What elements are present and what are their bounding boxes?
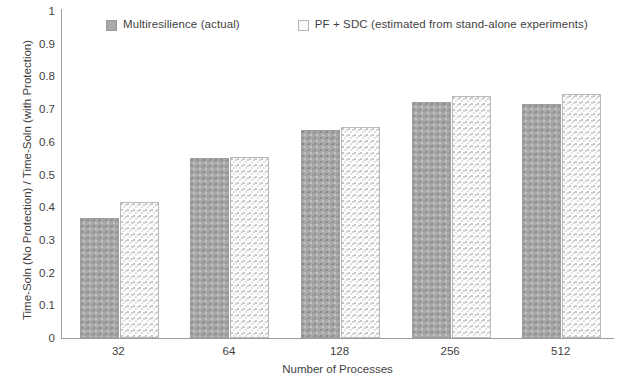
bar-group: [80, 11, 157, 338]
bar-group: [301, 11, 378, 338]
x-axis-tick-labels: 3264128256512: [61, 345, 614, 363]
x-axis-line: [61, 338, 614, 339]
bar-256-series-2: [452, 96, 491, 338]
x-tick-label: 128: [330, 345, 349, 357]
bar-group: [190, 11, 267, 338]
bar-group: [522, 11, 599, 338]
bar-32-series-2: [120, 202, 159, 338]
y-axis-title: Time-Soln (No Protection) / Time-Soln (w…: [21, 15, 33, 345]
bar-group: [412, 11, 489, 338]
bar-256-series-1: [412, 102, 451, 338]
bar-64-series-2: [230, 157, 269, 338]
bar-64-series-1: [190, 158, 229, 338]
x-tick-label: 64: [222, 345, 235, 357]
bar-32-series-1: [80, 218, 119, 338]
bar-128-series-1: [301, 130, 340, 338]
bars-layer: [61, 11, 614, 338]
bar-128-series-2: [341, 127, 380, 338]
x-tick-label: 256: [441, 345, 460, 357]
bar-512-series-1: [522, 104, 561, 338]
bar-512-series-2: [562, 94, 601, 338]
x-axis-title: Number of Processes: [61, 363, 614, 375]
x-tick-label: 512: [551, 345, 570, 357]
x-tick-label: 32: [112, 345, 125, 357]
bar-chart: Multiresilience (actual) PF + SDC (estim…: [0, 0, 633, 381]
